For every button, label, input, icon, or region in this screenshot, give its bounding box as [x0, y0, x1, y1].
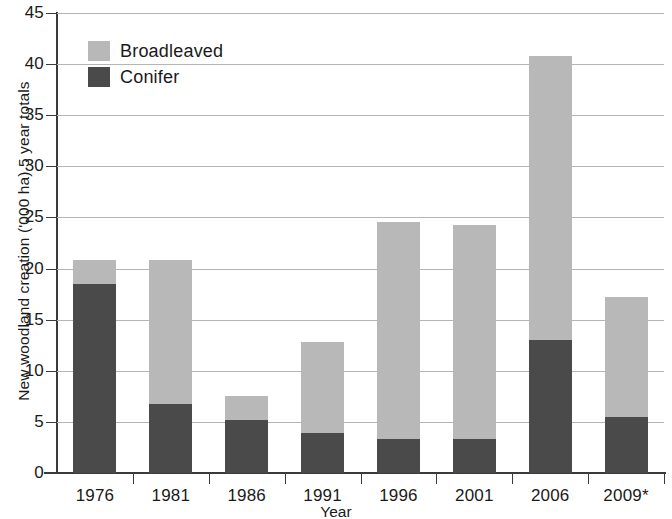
bar-group[interactable] — [605, 13, 648, 473]
x-axis-title: Year — [0, 503, 672, 519]
bar-segment-broadleaved[interactable] — [73, 260, 116, 284]
stacked-bar-chart: 051015202530354045 197619811986199119962… — [0, 0, 672, 519]
bar-group[interactable] — [453, 13, 496, 473]
gridline — [57, 320, 664, 321]
legend-label-broadleaved: Broadleaved — [120, 42, 223, 60]
bar-segment-conifer[interactable] — [529, 340, 572, 473]
gridline — [57, 269, 664, 270]
bar-segment-broadleaved[interactable] — [377, 222, 420, 440]
x-axis-tick — [361, 473, 362, 484]
x-axis-tick — [664, 473, 665, 484]
chart-legend: Broadleaved Conifer — [88, 38, 223, 90]
legend-item-broadleaved[interactable]: Broadleaved — [88, 38, 223, 64]
gridline — [57, 13, 664, 14]
bar-segment-broadleaved[interactable] — [225, 396, 268, 420]
bar-group[interactable] — [301, 13, 344, 473]
bar-segment-conifer[interactable] — [225, 420, 268, 473]
gridline — [57, 166, 664, 167]
bar-segment-broadleaved[interactable] — [149, 260, 192, 403]
bar-segment-conifer[interactable] — [377, 439, 420, 473]
bar-segment-broadleaved[interactable] — [529, 56, 572, 340]
bar-group[interactable] — [377, 13, 420, 473]
x-axis-tick — [588, 473, 589, 484]
x-axis-tick — [436, 473, 437, 484]
legend-swatch-conifer — [88, 67, 110, 87]
legend-swatch-broadleaved — [88, 41, 110, 61]
legend-item-conifer[interactable]: Conifer — [88, 64, 223, 90]
x-axis-tick — [133, 473, 134, 484]
gridline — [57, 422, 664, 423]
gridline — [57, 371, 664, 372]
y-axis-tick-label: 45 — [0, 4, 44, 21]
bar-segment-broadleaved[interactable] — [301, 342, 344, 433]
bar-segment-conifer[interactable] — [301, 433, 344, 473]
bar-group[interactable] — [529, 13, 572, 473]
x-axis-tick — [512, 473, 513, 484]
y-axis-title: New woodland creation ('000 ha) 5 year t… — [15, 41, 33, 441]
bar-segment-conifer[interactable] — [149, 404, 192, 474]
y-axis-tick-label: 0 — [0, 464, 44, 481]
gridline — [57, 115, 664, 116]
bar-segment-conifer[interactable] — [73, 284, 116, 473]
legend-label-conifer: Conifer — [120, 68, 179, 86]
x-axis-tick — [209, 473, 210, 484]
bar-group[interactable] — [225, 13, 268, 473]
bar-segment-conifer[interactable] — [605, 417, 648, 473]
bar-segment-conifer[interactable] — [453, 439, 496, 473]
gridline — [57, 217, 664, 218]
x-axis-tick — [285, 473, 286, 484]
bar-segment-broadleaved[interactable] — [605, 297, 648, 417]
bar-segment-broadleaved[interactable] — [453, 225, 496, 440]
